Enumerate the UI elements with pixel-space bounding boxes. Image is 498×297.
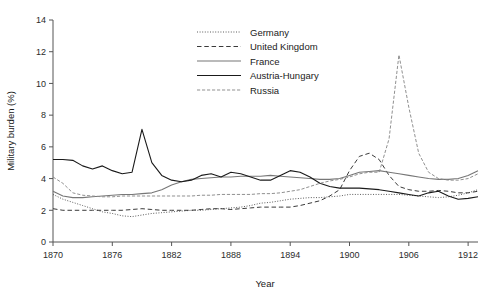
legend: GermanyUnited KingdomFranceAustria-Hunga… (197, 27, 319, 96)
y-tick-label: 2 (41, 206, 46, 216)
x-tick-label: 1888 (221, 250, 241, 260)
x-tick-label: 1876 (102, 250, 122, 260)
x-axis-tick-labels: 18701876188218881894190019061912 (43, 250, 478, 260)
x-tick-label: 1882 (162, 250, 182, 260)
chart-container: 02468101214 1870187618821888189419001906… (0, 0, 498, 297)
y-axis-tick-labels: 02468101214 (36, 15, 46, 247)
series-line-germany (53, 190, 478, 217)
x-tick-label: 1906 (399, 250, 419, 260)
y-tick-label: 6 (41, 142, 46, 152)
x-tick-label: 1900 (339, 250, 359, 260)
series-line-austria-hungary (53, 129, 478, 199)
y-tick-label: 8 (41, 110, 46, 120)
legend-label-austria-hungary: Austria-Hungary (250, 70, 319, 81)
y-axis-title: Military burden (%) (5, 91, 16, 171)
y-tick-label: 12 (36, 47, 46, 57)
y-tick-label: 10 (36, 79, 46, 89)
legend-label-france: France (250, 56, 280, 67)
x-tick-label: 1870 (43, 250, 63, 260)
series-line-united-kingdom (53, 153, 478, 210)
y-tick-label: 14 (36, 15, 46, 25)
y-tick-label: 0 (41, 237, 46, 247)
x-axis-title: Year (255, 278, 274, 289)
legend-label-germany: Germany (250, 27, 289, 38)
x-tick-label: 1912 (458, 250, 478, 260)
y-tick-label: 4 (41, 174, 46, 184)
x-tick-label: 1894 (280, 250, 300, 260)
legend-label-russia: Russia (250, 85, 280, 96)
y-axis-ticks (49, 20, 53, 242)
legend-label-united-kingdom: United Kingdom (250, 41, 318, 52)
military-burden-line-chart: 02468101214 1870187618821888189419001906… (0, 0, 498, 297)
x-axis-ticks (53, 242, 468, 246)
series-line-france (53, 171, 478, 198)
